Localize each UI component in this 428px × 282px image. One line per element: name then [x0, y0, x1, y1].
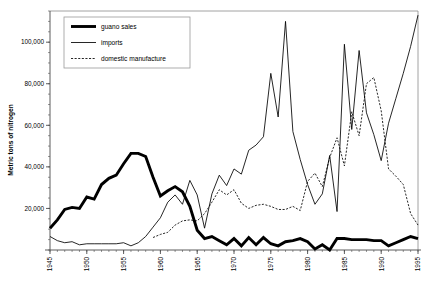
x-axis-tick-label: 1975: [267, 257, 274, 272]
x-axis-tick-label: 1990: [378, 257, 385, 272]
x-axis-tick-label: 1985: [341, 257, 348, 272]
chart-legend: guano sales imports domestic manufacture: [64, 17, 190, 68]
series-line-guano-sales: [50, 153, 418, 250]
y-axis-ticks: 20,00040,00060,00080,000100,000: [21, 11, 50, 250]
y-axis-tick-label: 80,000: [24, 80, 44, 87]
y-axis-tick-label: 40,000: [24, 163, 44, 170]
legend-label-guano-sales: guano sales: [101, 23, 137, 31]
y-axis-tick-label: 100,000: [21, 38, 45, 45]
x-axis-tick-label: 1955: [120, 257, 127, 272]
chart-figure: Metric tons of nitrogen 20,00040,00060,0…: [0, 0, 428, 282]
x-axis-tick-label: 1945: [46, 257, 53, 272]
y-axis-tick-label: 20,000: [24, 205, 44, 212]
x-axis-tick-label: 1980: [304, 257, 311, 272]
x-axis-ticks: 1945195019551960196519701975198019851990…: [46, 250, 421, 271]
line-chart: Metric tons of nitrogen 20,00040,00060,0…: [0, 0, 428, 282]
x-axis-tick-label: 1965: [194, 257, 201, 272]
x-axis-tick-label: 1970: [230, 257, 237, 272]
legend-label-imports: imports: [101, 39, 123, 47]
x-axis-tick-label: 1960: [157, 257, 164, 272]
y-axis-title-label: Metric tons of nitrogen: [7, 104, 15, 175]
y-axis-tick-label: 60,000: [24, 122, 44, 129]
y-axis-title: Metric tons of nitrogen: [7, 104, 15, 175]
legend-label-domestic-manufacture: domestic manufacture: [101, 55, 166, 62]
x-axis-tick-label: 1995: [414, 257, 421, 272]
x-axis-tick-label: 1950: [83, 257, 90, 272]
